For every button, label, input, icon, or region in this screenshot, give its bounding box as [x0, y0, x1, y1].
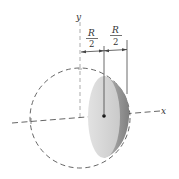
hemisphere-solid	[88, 76, 129, 158]
dimension-right-denominator: 2	[113, 37, 118, 47]
dimension-label-left: R 2	[86, 28, 98, 49]
y-axis	[78, 22, 82, 118]
hemisphere-diagram: y x R 2 R 2	[0, 0, 179, 179]
dimension-label-right: R 2	[110, 25, 122, 47]
dimension-left-numerator: R	[87, 28, 95, 38]
y-axis-label: y	[75, 12, 82, 22]
dimension-left-denominator: 2	[89, 39, 94, 49]
x-axis	[12, 111, 160, 124]
dimension-right-numerator: R	[111, 25, 119, 35]
x-axis-label: x	[161, 106, 166, 116]
